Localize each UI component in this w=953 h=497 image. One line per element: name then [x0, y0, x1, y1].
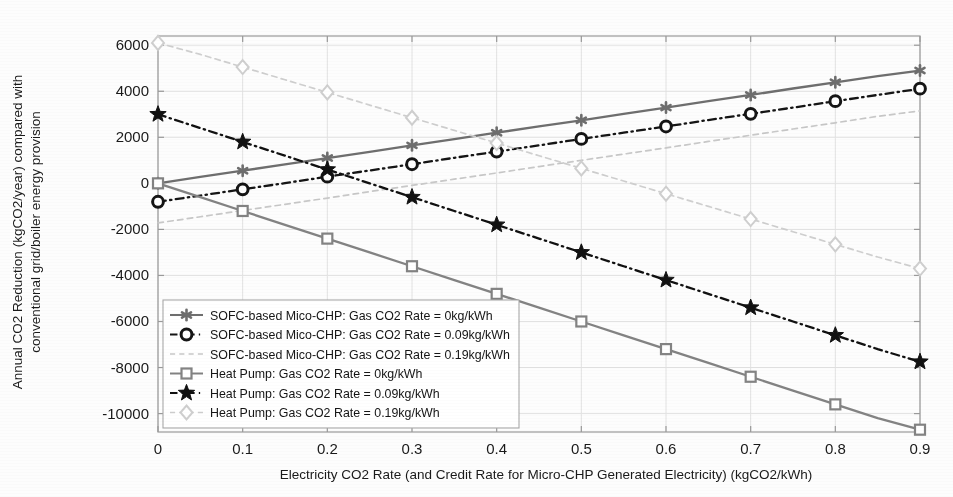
legend-item-4[interactable]: Heat Pump: Gas CO2 Rate = 0.09kg/kWh	[170, 384, 440, 400]
data-point-marker-square	[322, 234, 332, 244]
data-point-marker-circle	[745, 108, 756, 119]
legend-item-label: Heat Pump: Gas CO2 Rate = 0.09kg/kWh	[210, 387, 440, 401]
data-point-marker-square	[182, 369, 192, 379]
data-point-marker-square	[746, 372, 756, 382]
data-point-marker-square	[661, 344, 671, 354]
data-point-marker-square	[830, 399, 840, 409]
data-point-marker-square	[915, 425, 925, 435]
y-tick-label: -6000	[111, 312, 149, 329]
x-tick-label: 0.8	[825, 440, 846, 457]
data-point-marker-square	[576, 316, 586, 326]
data-point-marker-circle	[237, 184, 248, 195]
y-tick-label: -8000	[111, 359, 149, 376]
data-point-marker-square	[407, 261, 417, 271]
data-point-marker-square	[153, 178, 163, 188]
data-point-marker-circle	[661, 121, 672, 132]
chart-legend: SOFC-based Mico-CHP: Gas CO2 Rate = 0kg/…	[163, 300, 519, 428]
data-point-marker-circle	[407, 159, 418, 170]
x-tick-label: 0.1	[232, 440, 253, 457]
y-tick-label: -2000	[111, 220, 149, 237]
legend-item-label: SOFC-based Mico-CHP: Gas CO2 Rate = 0.09…	[210, 328, 510, 342]
legend-item-5[interactable]: Heat Pump: Gas CO2 Rate = 0.19kg/kWh	[170, 406, 440, 421]
data-point-marker-circle	[915, 83, 926, 94]
legend-item-0[interactable]: SOFC-based Mico-CHP: Gas CO2 Rate = 0kg/…	[170, 309, 493, 323]
data-point-marker-square	[238, 206, 248, 216]
co2-reduction-line-chart: 00.10.20.30.40.50.60.70.80.9 60004000200…	[0, 0, 953, 497]
y-axis-title-line1: Annual CO2 Reduction (kgCO2/year) compar…	[10, 75, 25, 389]
x-tick-label: 0.3	[402, 440, 423, 457]
data-point-marker-circle	[576, 134, 587, 145]
x-tick-label: 0.2	[317, 440, 338, 457]
data-point-marker-square	[492, 289, 502, 299]
y-tick-label: 6000	[116, 36, 149, 53]
legend-item-1[interactable]: SOFC-based Mico-CHP: Gas CO2 Rate = 0.09…	[170, 328, 510, 342]
x-tick-label: 0.9	[910, 440, 931, 457]
legend-item-label: SOFC-based Mico-CHP: Gas CO2 Rate = 0kg/…	[210, 309, 493, 323]
x-tick-label: 0	[154, 440, 162, 457]
data-point-marker-circle	[181, 329, 192, 340]
data-point-marker-circle	[153, 196, 164, 207]
y-tick-label: 0	[141, 174, 149, 191]
y-tick-label: -4000	[111, 266, 149, 283]
legend-item-label: Heat Pump: Gas CO2 Rate = 0.19kg/kWh	[210, 406, 440, 420]
x-tick-label: 0.7	[740, 440, 761, 457]
y-tick-label: 4000	[116, 82, 149, 99]
chart-figure: 00.10.20.30.40.50.60.70.80.9 60004000200…	[0, 0, 953, 497]
y-tick-label: 2000	[116, 128, 149, 145]
y-axis-title-line2: conventional grid/boiler energy provisio…	[28, 111, 43, 353]
y-tick-label: -10000	[102, 405, 149, 422]
legend-item-label: SOFC-based Mico-CHP: Gas CO2 Rate = 0.19…	[210, 348, 510, 362]
x-tick-label: 0.6	[656, 440, 677, 457]
data-point-marker-circle	[830, 96, 841, 107]
x-axis-title: Electricity CO2 Rate (and Credit Rate fo…	[280, 467, 812, 482]
legend-item-2[interactable]: SOFC-based Mico-CHP: Gas CO2 Rate = 0.19…	[170, 348, 510, 362]
figure-root: 00.10.20.30.40.50.60.70.80.9 60004000200…	[0, 0, 953, 497]
x-tick-label: 0.5	[571, 440, 592, 457]
x-tick-label: 0.4	[486, 440, 507, 457]
legend-item-label: Heat Pump: Gas CO2 Rate = 0kg/kWh	[210, 367, 423, 381]
